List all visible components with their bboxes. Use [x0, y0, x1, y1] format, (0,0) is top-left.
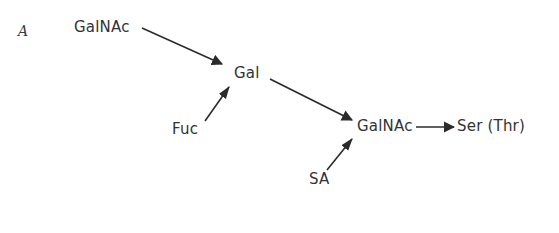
node-label-galnac-terminal: GalNAc: [74, 20, 130, 35]
edge-sa-to-galnac-core: [327, 139, 352, 170]
node-label-galnac-core: GalNAc: [357, 119, 413, 134]
panel-letter: A: [18, 24, 28, 38]
node-label-ser-thr: Ser (Thr): [457, 119, 525, 134]
node-label-fuc: Fuc: [172, 122, 198, 137]
node-label-gal: Gal: [234, 66, 260, 81]
node-label-sa: SA: [309, 172, 329, 187]
edge-fuc-to-gal: [205, 87, 229, 121]
glycan-structure-figure: A GalNAc Gal Fuc GalNAc Ser (Thr) SA: [0, 0, 559, 233]
edge-gal-to-galnac-core: [270, 79, 352, 120]
edge-galnac-terminal-to-gal: [142, 28, 222, 64]
